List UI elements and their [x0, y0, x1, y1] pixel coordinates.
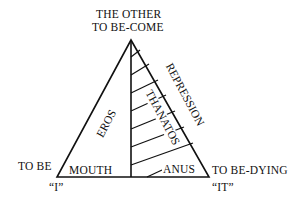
left-vertex-quote: “I” — [49, 182, 64, 194]
mouth-label: MOUTH — [69, 165, 112, 177]
left-vertex-label: TO BE — [18, 161, 52, 173]
right-vertex-label: TO BE-DYING — [212, 165, 288, 177]
anus-label: ANUS — [162, 164, 196, 176]
right-vertex-quote: “IT” — [212, 182, 234, 194]
apex-label-line2: TO BE-COME — [92, 22, 164, 34]
apex-label-line1: THE OTHER — [96, 9, 161, 21]
